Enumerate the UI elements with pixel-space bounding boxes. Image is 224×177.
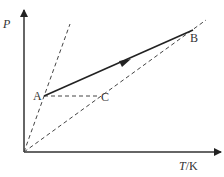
y-axis-label: P	[2, 17, 11, 31]
point-c-label: C	[101, 90, 109, 104]
x-axis-label: T/K	[179, 159, 198, 173]
point-b-label: B	[190, 31, 198, 45]
pt-diagram: P T/K A B C	[0, 0, 224, 177]
isochore-through-c-b	[24, 20, 206, 152]
point-a-label: A	[33, 89, 42, 103]
direction-arrow-icon	[119, 59, 131, 67]
process-line-a-b	[44, 30, 193, 96]
